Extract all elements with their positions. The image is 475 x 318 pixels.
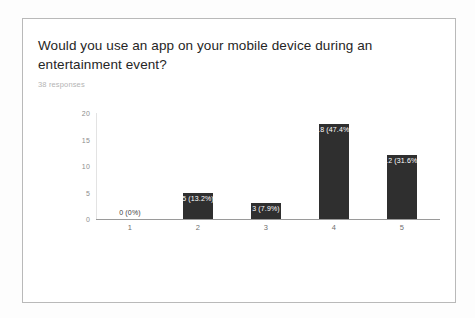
screenshot-root: Would you use an app on your mobile devi… [0,0,475,318]
x-axis-tick-label: 3 [264,223,268,232]
x-axis-tick-label: 4 [332,223,336,232]
bar-chart: 05101520 0 (0%)5 (13.2%)3 (7.9%)18 (47.4… [38,101,442,241]
bar-value-label: 5 (13.2%) [182,194,214,203]
bar-group: 18 (47.4%) [319,113,349,219]
card-inner: Would you use an app on your mobile devi… [23,19,455,302]
y-axis-tick-label: 15 [72,136,90,143]
y-axis-tick-label: 0 [72,216,90,223]
bar-group: 3 (7.9%) [251,113,281,219]
plot-area: 0 (0%)5 (13.2%)3 (7.9%)18 (47.4%)12 (31.… [96,113,436,219]
bar-value-label: 0 (0%) [119,208,141,217]
x-axis-tick-label: 1 [128,223,132,232]
y-axis-ticks: 05101520 [72,113,90,219]
y-axis-tick-label: 10 [72,163,90,170]
x-axis-ticks: 12345 [96,223,436,237]
bar[interactable] [319,124,349,219]
bar-value-label: 18 (47.4%) [316,125,352,134]
x-axis-line [96,219,440,220]
bar-value-label: 12 (31.6%) [384,156,420,165]
response-count-label: 38 responses [38,80,85,90]
y-axis-tick-label: 20 [72,110,90,117]
x-axis-tick-label: 5 [400,223,404,232]
bar-value-label: 3 (7.9%) [252,204,280,213]
x-axis-tick-label: 2 [196,223,200,232]
bar-group: 12 (31.6%) [387,113,417,219]
survey-result-card: Would you use an app on your mobile devi… [22,18,456,303]
y-axis-tick-label: 5 [72,189,90,196]
page-title: Would you use an app on your mobile devi… [38,36,408,74]
bar-group: 0 (0%) [115,113,145,219]
bar-group: 5 (13.2%) [183,113,213,219]
